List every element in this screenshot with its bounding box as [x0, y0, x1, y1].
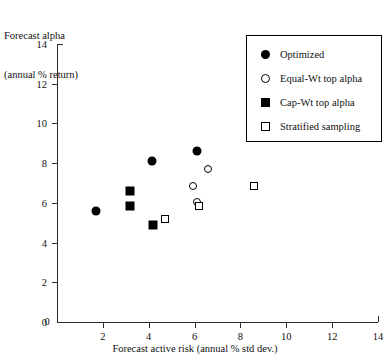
y-axis-tick [52, 163, 58, 164]
x-axis-tick-label: 12 [327, 331, 338, 342]
y-axis-tick [52, 203, 58, 204]
y-axis-tick [52, 243, 58, 244]
square-open-icon [261, 122, 270, 131]
x-axis-title: Forecast active risk (annual % std dev.) [0, 343, 390, 354]
x-axis-tick-label: 6 [192, 331, 197, 342]
legend-item-label: Cap-Wt top alpha [280, 97, 355, 108]
y-axis-tick-label: 14 [37, 39, 48, 50]
data-point [91, 206, 100, 215]
legend-marker-square-filled-icon [259, 96, 271, 108]
x-axis-line [57, 322, 378, 323]
y-axis-tick-label: 4 [42, 237, 47, 248]
legend-item: Cap-Wt top alpha [259, 95, 355, 109]
circle-filled-icon [261, 50, 270, 59]
x-axis-origin-label: 0 [44, 316, 49, 327]
x-axis-tick-label: 4 [146, 331, 151, 342]
x-axis-tick [195, 322, 196, 328]
data-point [161, 215, 169, 223]
x-axis-tick [149, 322, 150, 328]
y-axis-tick-label: 8 [42, 158, 47, 169]
legend-item-label: Stratified sampling [280, 121, 360, 132]
y-axis-tick-label: 6 [42, 197, 47, 208]
data-point [250, 182, 258, 190]
data-point [192, 147, 201, 156]
y-axis-tick [52, 282, 58, 283]
data-point [204, 165, 212, 173]
data-point [195, 202, 203, 210]
x-axis-tick [332, 322, 333, 328]
x-axis-tick-label: 8 [238, 331, 243, 342]
legend-item: Equal-Wt top alpha [259, 71, 362, 85]
data-point [126, 186, 135, 195]
x-axis-tick-label: 10 [281, 331, 292, 342]
legend-item-label: Equal-Wt top alpha [280, 73, 362, 84]
y-axis-tick [52, 123, 58, 124]
data-point [126, 201, 135, 210]
legend-marker-circle-filled-icon [259, 48, 271, 60]
legend-marker-circle-open-icon [259, 72, 271, 84]
y-axis-tick [57, 44, 63, 45]
legend-item: Optimized [259, 47, 324, 61]
data-point [148, 157, 157, 166]
x-axis-tick-label: 14 [373, 331, 384, 342]
x-axis-tick [103, 322, 104, 328]
legend-item-label: Optimized [280, 49, 324, 60]
y-axis-tick [52, 84, 58, 85]
square-filled-icon [261, 98, 270, 107]
chart-page: Forecast alpha (annual % return) 0246810… [0, 0, 390, 364]
x-axis-tick [240, 322, 241, 328]
legend: OptimizedEqual-Wt top alphaCap-Wt top al… [246, 35, 382, 142]
x-axis-tick [378, 316, 379, 322]
data-point [189, 182, 197, 190]
legend-item: Stratified sampling [259, 119, 360, 133]
legend-marker-square-open-icon [259, 120, 271, 132]
y-axis-tick-label: 10 [37, 118, 48, 129]
circle-open-icon [261, 74, 270, 83]
data-point [149, 220, 158, 229]
y-axis-line [57, 44, 58, 322]
x-axis-tick-label: 2 [100, 331, 105, 342]
x-axis-tick [286, 322, 287, 328]
y-axis-tick-label: 12 [37, 78, 48, 89]
y-axis-tick-label: 2 [42, 277, 47, 288]
